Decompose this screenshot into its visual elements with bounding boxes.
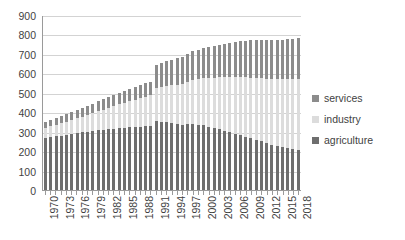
x-axis-tick bbox=[198, 191, 199, 195]
x-axis-tick-label: 2006 bbox=[239, 196, 250, 219]
bar-segment-agriculture bbox=[139, 127, 142, 190]
x-axis-tick bbox=[108, 191, 109, 195]
bar-segment-agriculture bbox=[176, 124, 179, 190]
bar-column bbox=[144, 16, 147, 190]
x-axis-tick bbox=[50, 191, 51, 195]
bar-segment-services bbox=[239, 41, 242, 77]
x-axis-tick bbox=[45, 191, 46, 195]
x-axis-tick-label: 2009 bbox=[255, 196, 266, 219]
x-axis-tick bbox=[87, 191, 88, 195]
x-axis-tick bbox=[92, 191, 93, 195]
bar-segment-industry bbox=[170, 85, 173, 123]
bar-segment-industry bbox=[55, 125, 58, 137]
bar-segment-services bbox=[128, 89, 131, 101]
bar-segment-agriculture bbox=[44, 138, 47, 190]
bar-column bbox=[134, 16, 137, 190]
bar-segment-agriculture bbox=[191, 124, 194, 190]
bar-segment-industry bbox=[107, 108, 110, 129]
bar-segment-agriculture bbox=[112, 129, 115, 190]
x-axis-tick-label: 1994 bbox=[176, 196, 187, 219]
bar-segment-agriculture bbox=[197, 125, 200, 190]
bar-segment-industry bbox=[123, 103, 126, 128]
x-axis-tick bbox=[161, 191, 162, 195]
legend-item[interactable]: agriculture bbox=[312, 134, 402, 146]
bar-column bbox=[176, 16, 179, 190]
bar-segment-industry bbox=[112, 106, 115, 129]
y-axis-tick-label: 900 bbox=[18, 11, 36, 22]
bar-segment-services bbox=[112, 95, 115, 106]
bar-segment-industry bbox=[70, 120, 73, 134]
x-axis-tick bbox=[98, 191, 99, 195]
x-axis-tick bbox=[129, 191, 130, 195]
bar-segment-industry bbox=[286, 79, 289, 148]
x-axis-tick bbox=[230, 191, 231, 195]
bar-segment-services bbox=[281, 40, 284, 80]
bar-segment-services bbox=[260, 40, 263, 78]
bar-segment-agriculture bbox=[81, 132, 84, 190]
x-axis-tick bbox=[187, 191, 188, 195]
bar-column bbox=[191, 16, 194, 190]
bar-column bbox=[102, 16, 105, 190]
bar-segment-industry bbox=[102, 110, 105, 130]
bar-segment-agriculture bbox=[265, 143, 268, 190]
bar-segment-industry bbox=[276, 79, 279, 146]
y-axis-tick-label: 400 bbox=[18, 108, 36, 119]
chart-legend: servicesindustryagriculture bbox=[312, 92, 402, 155]
bar-column bbox=[234, 16, 237, 190]
bar-column bbox=[186, 16, 189, 190]
bar-segment-services bbox=[139, 85, 142, 98]
bar-segment-agriculture bbox=[213, 128, 216, 190]
x-axis-tick-label: 1982 bbox=[112, 196, 123, 219]
x-axis-tick-label: 1985 bbox=[128, 196, 139, 219]
bar-segment-services bbox=[155, 65, 158, 88]
bar-column bbox=[291, 16, 294, 190]
bar-segment-services bbox=[276, 40, 279, 79]
x-axis-tick bbox=[240, 191, 241, 195]
bar-segment-agriculture bbox=[223, 131, 226, 191]
bar-segment-services bbox=[123, 91, 126, 103]
bar-segment-agriculture bbox=[70, 134, 73, 190]
bar-segment-agriculture bbox=[55, 136, 58, 190]
bar-segment-services bbox=[249, 40, 252, 77]
bar-segment-agriculture bbox=[186, 124, 189, 190]
bar-column bbox=[65, 16, 68, 190]
bar-segment-agriculture bbox=[86, 132, 89, 190]
bar-segment-industry bbox=[176, 85, 179, 124]
stacked-bar-chart: 0100200300400500600700800900 19701973197… bbox=[0, 0, 405, 240]
legend-item[interactable]: industry bbox=[312, 113, 402, 125]
x-axis-tick-label: 2003 bbox=[223, 196, 234, 219]
legend-swatch-icon bbox=[312, 137, 319, 144]
x-axis-tick bbox=[177, 191, 178, 195]
bar-segment-industry bbox=[197, 79, 200, 125]
x-axis-tick bbox=[182, 191, 183, 195]
x-axis-tick bbox=[82, 191, 83, 195]
x-axis-tick-label: 1991 bbox=[160, 196, 171, 219]
bar-segment-industry bbox=[234, 77, 237, 133]
bar-column bbox=[107, 16, 110, 190]
bar-column bbox=[270, 16, 273, 190]
bar-column bbox=[265, 16, 268, 190]
bar-segment-agriculture bbox=[249, 138, 252, 190]
bar-segment-services bbox=[218, 45, 221, 78]
x-axis-tick bbox=[219, 191, 220, 195]
bar-column bbox=[181, 16, 184, 190]
bar-column bbox=[160, 16, 163, 190]
bar-column bbox=[207, 16, 210, 190]
bar-segment-services bbox=[186, 54, 189, 82]
bar-column bbox=[297, 16, 300, 190]
bar-series-container bbox=[43, 16, 301, 190]
x-axis-tick-label: 2018 bbox=[302, 196, 313, 219]
bar-segment-services bbox=[223, 44, 226, 77]
bar-segment-industry bbox=[218, 77, 221, 129]
bar-segment-agriculture bbox=[144, 126, 147, 190]
bar-segment-industry bbox=[76, 118, 79, 133]
x-axis-tick bbox=[209, 191, 210, 195]
x-axis-tick bbox=[172, 191, 173, 195]
y-axis-tick-label: 500 bbox=[18, 89, 36, 100]
y-axis: 0100200300400500600700800900 bbox=[0, 0, 40, 240]
bar-column bbox=[239, 16, 242, 190]
legend-item[interactable]: services bbox=[312, 92, 402, 104]
bar-segment-agriculture bbox=[160, 122, 163, 190]
legend-label: services bbox=[324, 93, 363, 104]
bar-column bbox=[49, 16, 52, 190]
